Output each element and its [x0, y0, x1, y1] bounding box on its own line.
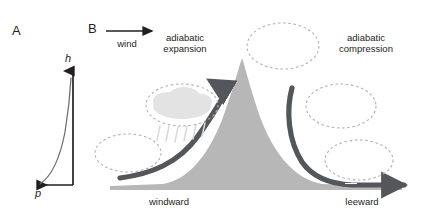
cloud-icon	[153, 87, 212, 119]
parcel-leeward-low	[325, 140, 393, 180]
airflow-windward-tick	[160, 170, 172, 173]
parcel-summit	[247, 23, 319, 69]
figure-root: A h p B wind adiabatic expansion adiabat…	[0, 0, 429, 221]
panel-b-diagram	[0, 0, 429, 221]
parcel-leeward-upper	[306, 84, 376, 128]
parcel-upwind-low	[95, 134, 161, 172]
